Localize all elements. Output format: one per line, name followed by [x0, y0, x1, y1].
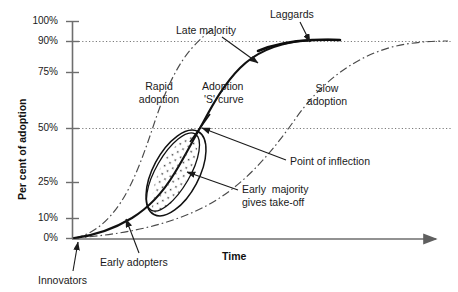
leader-innovators — [73, 242, 78, 271]
diagram-canvas — [0, 0, 458, 292]
annotation-rapid-adoption-line2: adoption — [128, 93, 190, 106]
annotation-adoption-s-curve-line2: 'S' curve — [204, 93, 244, 106]
leader-early-adopters — [126, 219, 139, 253]
y-tick-label-75: 75% — [14, 66, 58, 77]
annotation-early-adopters: Early adopters — [100, 256, 168, 269]
annotation-laggards: Laggards — [270, 8, 314, 21]
inflection-mark — [190, 114, 210, 142]
rapid-adoption-curve — [75, 27, 216, 238]
annotation-early-majority-line1: Early majority — [242, 183, 309, 196]
annotation-slow-adoption-line1: Slow — [296, 82, 358, 95]
y-tick-label-0: 0% — [14, 232, 58, 243]
y-tick-label-10: 10% — [14, 212, 58, 223]
annotation-point-of-inflection: Point of inflection — [290, 155, 370, 168]
annotation-late-majority: Late majority — [176, 24, 236, 37]
y-axis-title: Per cent of adoption — [16, 98, 28, 200]
y-tick-label-100: 100% — [14, 15, 58, 26]
annotation-early-majority-line2: gives take-off — [242, 196, 304, 209]
x-axis-title: Time — [222, 250, 246, 262]
annotation-rapid-adoption-line1: Rapid — [128, 80, 190, 93]
annotation-adoption-s-curve-line1: Adoption — [202, 80, 243, 93]
leader-point-of-inflection — [202, 128, 286, 160]
leader-late-majority — [222, 37, 258, 63]
leader-laggards — [300, 22, 310, 42]
adoption-s-curve-figure: 100% 90% 75% 50% 25% 10% 0% Per cent of … — [0, 0, 458, 292]
annotation-slow-adoption-line2: adoption — [296, 95, 358, 108]
annotation-innovators: Innovators — [38, 274, 87, 287]
early-majority-takeoff-ellipse — [134, 121, 219, 226]
y-tick-label-90: 90% — [14, 35, 58, 46]
